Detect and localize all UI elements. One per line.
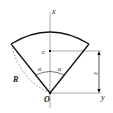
angle-right-label: α — [58, 66, 62, 72]
radius-label: R — [12, 75, 19, 84]
angle-left-label: α — [38, 66, 42, 72]
x-axis-label: x — [51, 7, 56, 16]
centroid-label: c — [42, 48, 46, 56]
y-axis-label: y — [100, 93, 105, 102]
centroid-marker — [49, 50, 51, 52]
sector-centroid-diagram: x y c O R α α x̄ — [0, 0, 113, 113]
arrow-head-top — [97, 51, 100, 55]
origin-label: O — [44, 95, 50, 104]
centroid-distance-label: x̄ — [93, 71, 99, 75]
origin-point — [49, 92, 51, 94]
